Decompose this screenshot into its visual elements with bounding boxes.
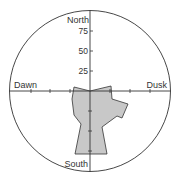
label-dawn: Dawn	[14, 80, 37, 90]
label-south: South	[64, 159, 88, 169]
data-polygon	[72, 86, 128, 154]
polar-chart: 75 50 25 North South Dawn Dusk	[0, 0, 177, 179]
tick-label-25: 25	[79, 66, 89, 76]
tick-label-50: 50	[79, 46, 89, 56]
label-north: North	[67, 15, 89, 25]
label-dusk: Dusk	[146, 80, 167, 90]
tick-label-75: 75	[79, 26, 89, 36]
